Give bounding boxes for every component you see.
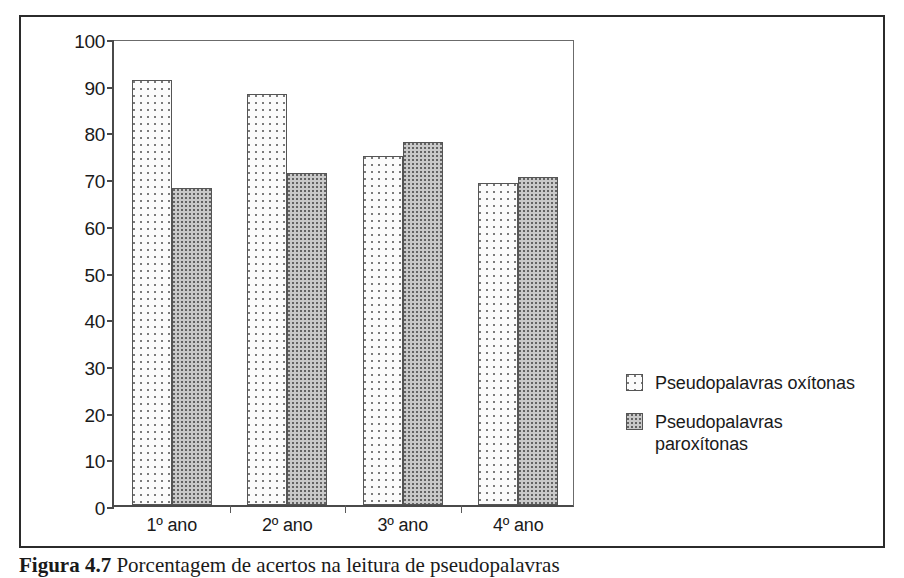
y-axis-tick-mark — [107, 227, 114, 229]
y-axis-tick-label: 10 — [84, 452, 105, 471]
figure-caption-text: Porcentagem de acertos na leitura de pse… — [111, 553, 559, 577]
y-axis-tick-mark — [107, 460, 114, 462]
y-axis-tick-mark — [107, 133, 114, 135]
y-axis-tick-label: 0 — [95, 499, 105, 518]
bar — [247, 94, 287, 505]
legend-swatch-icon — [626, 374, 643, 391]
legend-label: Pseudopalavras oxítonas — [655, 372, 855, 395]
y-axis-tick-label: 50 — [84, 265, 105, 284]
bar — [132, 80, 172, 505]
bar-chart: 0102030405060708090100 1º ano2º ano3º an… — [21, 17, 887, 550]
figure-frame: 0102030405060708090100 1º ano2º ano3º an… — [19, 15, 885, 548]
bar — [403, 142, 443, 505]
chart-legend: Pseudopalavras oxítonasPseudopalavras pa… — [626, 372, 876, 472]
y-axis-tick-mark — [107, 274, 114, 276]
x-axis-category-label: 3º ano — [378, 516, 428, 534]
y-axis-tick-label: 80 — [84, 125, 105, 144]
y-axis-tick-label: 30 — [84, 358, 105, 377]
y-axis-tick-mark — [107, 180, 114, 182]
x-axis-separator-tick — [345, 505, 346, 513]
y-axis-tick-label: 60 — [84, 218, 105, 237]
y-axis-tick-mark — [107, 40, 114, 42]
y-axis-tick-label: 40 — [84, 312, 105, 331]
y-axis-tick-mark — [107, 414, 114, 416]
x-axis-category-label: 4º ano — [493, 516, 543, 534]
plot-area: 0102030405060708090100 1º ano2º ano3º an… — [112, 40, 574, 507]
y-axis-tick-label: 70 — [84, 172, 105, 191]
y-axis-tick-mark — [107, 507, 114, 509]
y-axis-tick-mark — [107, 367, 114, 369]
bar — [518, 177, 558, 505]
y-axis-tick-label: 90 — [84, 78, 105, 97]
bar — [363, 156, 403, 505]
figure-caption: Figura 4.7 Porcentagem de acertos na lei… — [19, 553, 885, 578]
legend-swatch-icon — [626, 413, 643, 430]
legend-item: Pseudopalavras oxítonas — [626, 372, 876, 395]
y-axis-tick-label: 100 — [74, 32, 105, 51]
legend-item: Pseudopalavras paroxítonas — [626, 411, 876, 456]
y-axis-tick-mark — [107, 320, 114, 322]
figure-caption-label: Figura 4.7 — [19, 553, 111, 577]
x-axis-separator-tick — [461, 505, 462, 513]
x-axis-category-label: 2º ano — [262, 516, 312, 534]
legend-label: Pseudopalavras paroxítonas — [655, 411, 805, 456]
bar — [287, 173, 327, 506]
bar — [172, 188, 212, 505]
y-axis-tick-mark — [107, 87, 114, 89]
y-axis-tick-label: 20 — [84, 405, 105, 424]
x-axis-separator-tick — [230, 505, 231, 513]
bar — [478, 183, 518, 505]
x-axis-category-label: 1º ano — [147, 516, 197, 534]
